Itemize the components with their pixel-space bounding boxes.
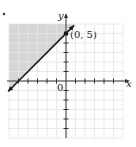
origin-label: 0 bbox=[57, 82, 63, 93]
point-marker bbox=[64, 32, 68, 36]
x-axis-label: x bbox=[126, 78, 132, 89]
y-axis-label: y bbox=[57, 10, 64, 21]
inequality-graph: (0, 5) y x 0 bbox=[0, 0, 136, 147]
point-label: (0, 5) bbox=[70, 29, 97, 40]
problem-bullet bbox=[3, 13, 5, 15]
